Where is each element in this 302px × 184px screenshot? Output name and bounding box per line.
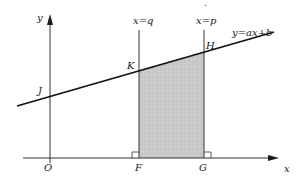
x-axis-label: x=q: [133, 15, 153, 26]
x-axis-arrow-icon: [268, 155, 279, 161]
right-angle-marker-f: [132, 152, 139, 158]
point-h-label: H: [205, 40, 215, 51]
diagram-canvas: y x=q x=p ˙ y=ax+b J K H O F G x: [0, 0, 302, 184]
point-k-label: K: [126, 60, 135, 71]
point-g-label: G: [199, 162, 207, 173]
p-dot-mark: ˙: [202, 3, 207, 14]
origin-label: O: [44, 162, 52, 173]
x-axis-end-label: x: [284, 163, 290, 174]
point-j-label: J: [36, 85, 43, 96]
y-axis-arrow-icon: [47, 14, 53, 25]
right-angle-marker-g: [204, 152, 211, 158]
point-f-label: F: [134, 162, 143, 173]
line-equation-label: y=ax+b: [231, 27, 272, 38]
x-p-label: x=p: [196, 15, 217, 26]
y-axis: [47, 14, 53, 163]
y-axis-label: y: [36, 12, 43, 23]
